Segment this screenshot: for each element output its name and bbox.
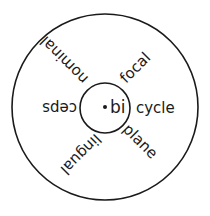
spoke-word-plane: plane (119, 120, 161, 162)
center-dot (103, 105, 107, 109)
spoke-word-focal: focal (116, 49, 154, 87)
spoke-word-ceps: ceps (42, 99, 77, 117)
spoke-word-lingual: lingual (57, 130, 105, 178)
spoke-word-cycle: cycle (136, 99, 175, 117)
word-wheel: bi cycle focal nominal ceps lingual plan… (0, 0, 210, 216)
center-prefix: bi (110, 97, 126, 117)
spoke-word-nominal: nominal (36, 33, 91, 88)
